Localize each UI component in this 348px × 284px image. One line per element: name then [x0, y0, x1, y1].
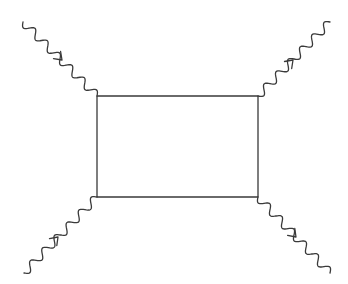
wavy-line-bottom-right	[257, 197, 330, 273]
wavy-line-bottom-left	[24, 197, 97, 274]
loop-box	[97, 96, 258, 197]
wavy-line-top-right	[258, 22, 330, 97]
wavy-line-top-left	[23, 22, 98, 96]
feynman-diagram	[0, 0, 348, 284]
